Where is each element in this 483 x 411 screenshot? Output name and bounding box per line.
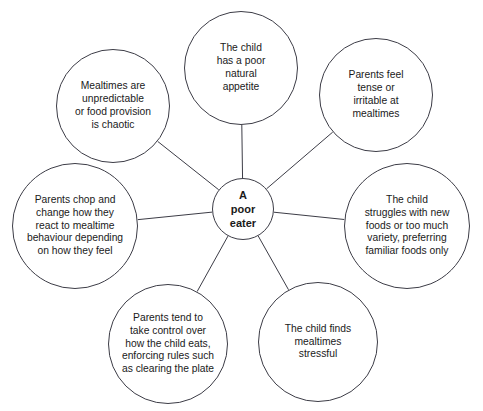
diagram-canvas: Mealtimes are unpredictable or food prov…	[0, 0, 483, 411]
connector-line-parents-chop-and-change	[138, 212, 212, 220]
node-center-a-poor-eater[interactable]: A poor eater	[212, 178, 274, 240]
connector-line-parents-take-control	[197, 236, 228, 291]
connector-line-poor-natural-appetite	[242, 125, 243, 178]
node-parents-chop-and-change[interactable]: Parents chop and change how they react t…	[12, 163, 138, 289]
node-label: The child finds mealtimes stressful	[281, 323, 355, 362]
node-struggles-with-new-foods[interactable]: The child struggles with new foods or to…	[344, 163, 470, 289]
node-parents-take-control[interactable]: Parents tend to take control over how th…	[108, 284, 228, 404]
node-poor-natural-appetite[interactable]: The child has a poor natural appetite	[184, 11, 298, 125]
connector-line-child-finds-mealtimes-stressful	[258, 236, 288, 290]
connector-line-struggles-with-new-foods	[274, 212, 345, 219]
node-label: Mealtimes are unpredictable or food prov…	[71, 80, 155, 132]
node-label: The child struggles with new foods or to…	[361, 194, 454, 259]
connector-line-parents-feel-tense	[267, 132, 333, 189]
node-label: The child has a poor natural appetite	[213, 42, 270, 94]
node-parents-feel-tense[interactable]: Parents feel tense or irritable at mealt…	[319, 38, 433, 152]
connector-line-mealtimes-unpredictable	[158, 141, 219, 189]
node-label: Parents feel tense or irritable at mealt…	[345, 69, 408, 121]
node-label: A poor eater	[226, 188, 260, 231]
node-mealtimes-unpredictable[interactable]: Mealtimes are unpredictable or food prov…	[56, 49, 170, 163]
node-label: Parents chop and change how they react t…	[23, 194, 127, 259]
node-child-finds-mealtimes-stressful[interactable]: The child finds mealtimes stressful	[258, 282, 378, 402]
node-label: Parents tend to take control over how th…	[118, 312, 218, 377]
